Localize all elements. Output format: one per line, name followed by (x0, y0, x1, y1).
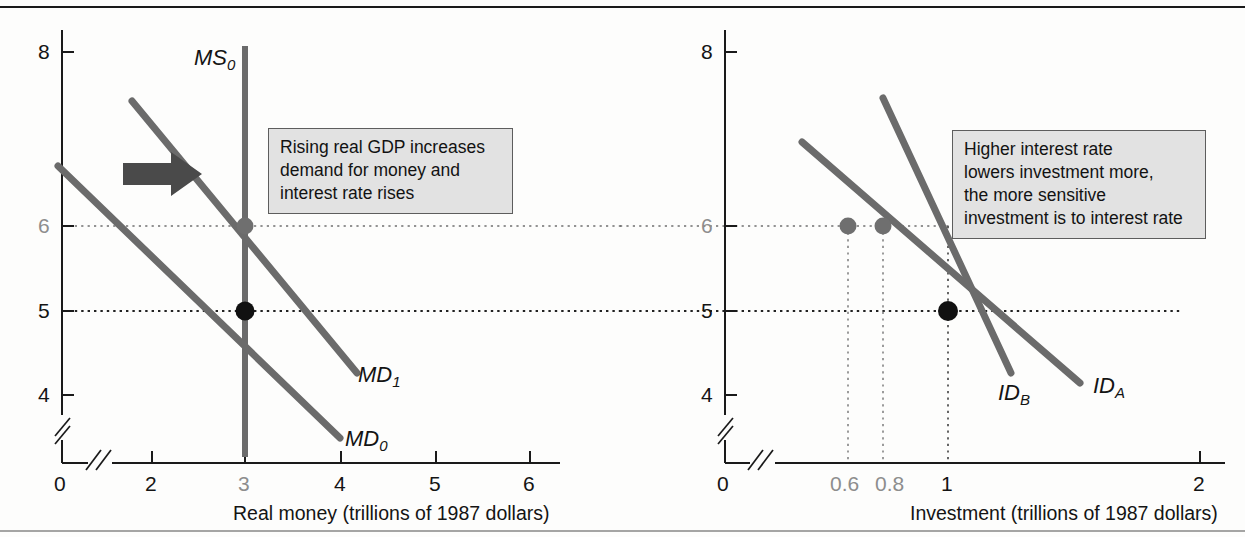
x-tick-label-0.8: 0.8 (875, 473, 904, 494)
y-axis-break-mark-1 (718, 418, 733, 436)
investment-demand-panel: Interest rate (percent per year) 8 6 5 4… (620, 0, 1242, 537)
ida-at-6-dot (840, 218, 857, 235)
y-tick-label-5: 5 (38, 300, 50, 321)
x-tick-label-1: 1 (941, 473, 953, 494)
common-equilibrium-dot (938, 301, 958, 321)
callout-line-1: Higher interest rate (964, 138, 1195, 161)
y-tick-label-5: 5 (701, 300, 713, 321)
investment-demand-callout: Higher interest rate lowers investment m… (952, 130, 1206, 239)
x-tick-label-2: 2 (145, 473, 157, 494)
y-tick-label-4: 4 (701, 384, 713, 405)
md1-label: MD1 (358, 364, 401, 389)
initial-equilibrium-dot (236, 302, 255, 321)
md1-label-sub: 1 (392, 373, 400, 390)
x-tick-label-0.6: 0.6 (830, 473, 859, 494)
md0-label: MD0 (345, 428, 388, 453)
callout-line-2: lowers investment more, (964, 161, 1195, 184)
new-equilibrium-dot (237, 218, 254, 235)
ida-label-base: ID (1093, 373, 1115, 398)
money-market-panel: Interest rate (percent per year) 8 6 5 4… (0, 0, 622, 537)
y-tick-label-4: 4 (38, 384, 50, 405)
x-tick-label-3: 3 (238, 473, 250, 494)
x-tick-label-6: 6 (523, 473, 535, 494)
idb-label-sub: B (1020, 391, 1030, 408)
callout-line-2: demand for money and (280, 159, 502, 182)
money-market-plot (0, 0, 622, 537)
x-tick-label-4: 4 (334, 473, 346, 494)
idb-at-6-dot (875, 218, 892, 235)
ms0-label: MS0 (194, 47, 235, 72)
investment-demand-plot (620, 0, 1245, 537)
y-tick-label-6: 6 (38, 215, 50, 236)
y-tick-label-8: 8 (701, 41, 713, 62)
callout-line-3: the more sensitive (964, 184, 1195, 207)
x-tick-label-0: 0 (717, 473, 729, 494)
x-tick-label-0: 0 (54, 473, 66, 494)
x-tick-label-2: 2 (1193, 473, 1205, 494)
right-arrow-icon (123, 152, 202, 196)
money-market-callout: Rising real GDP increases demand for mon… (268, 128, 513, 214)
md0-label-base: MD (345, 426, 379, 451)
callout-line-4: investment is to interest rate (964, 207, 1195, 230)
idb-label-base: ID (998, 380, 1020, 405)
ida-label-sub: A (1115, 384, 1125, 401)
callout-line-1: Rising real GDP increases (280, 136, 502, 159)
y-tick-label-8: 8 (38, 41, 50, 62)
ms0-label-sub: 0 (227, 56, 235, 73)
y-tick-label-6: 6 (701, 215, 713, 236)
idb-label: IDB (998, 382, 1030, 407)
x-axis-title: Investment (trillions of 1987 dollars) (910, 504, 1218, 524)
ms0-label-base: MS (194, 45, 227, 70)
x-tick-label-5: 5 (429, 473, 441, 494)
callout-line-3: interest rate rises (280, 182, 502, 205)
x-axis-title: Real money (trillions of 1987 dollars) (233, 504, 549, 524)
ida-label: IDA (1093, 375, 1125, 400)
md1-label-base: MD (358, 362, 392, 387)
y-axis-break-mark-1 (55, 418, 70, 436)
md0-label-sub: 0 (379, 437, 387, 454)
economics-figure: Interest rate (percent per year) 8 6 5 4… (0, 0, 1245, 537)
